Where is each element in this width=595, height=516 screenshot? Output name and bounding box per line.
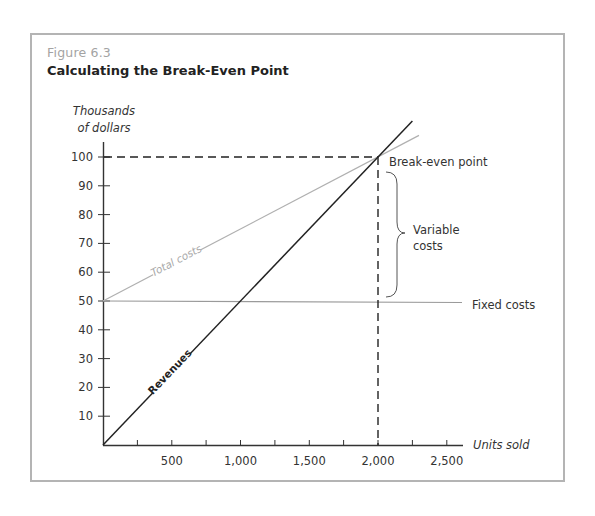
x-axis-title: Units sold: [473, 438, 530, 452]
svg-text:90: 90: [78, 179, 93, 193]
total-costs-label: Total costs: [149, 242, 204, 279]
x-axis-tick-labels: 500 1,000 1,500 2,000 2,500: [161, 454, 463, 468]
svg-text:1,000: 1,000: [224, 454, 257, 468]
svg-text:80: 80: [78, 208, 93, 222]
svg-text:10: 10: [78, 409, 93, 423]
svg-text:1,500: 1,500: [293, 454, 326, 468]
break-even-chart: Thousands of dollars 10 20 30 40 50 60 7…: [0, 0, 595, 516]
variable-costs-brace-icon: [386, 172, 405, 297]
variable-costs-label-line1: Variable: [413, 223, 460, 237]
y-axis-title-line2: of dollars: [77, 121, 130, 135]
svg-text:50: 50: [78, 294, 93, 308]
svg-text:100: 100: [71, 150, 93, 164]
y-axis-title-line1: Thousands: [73, 104, 135, 118]
svg-text:2,000: 2,000: [362, 454, 395, 468]
svg-text:70: 70: [78, 236, 93, 250]
total-costs-line: [103, 135, 419, 301]
svg-text:30: 30: [78, 352, 93, 366]
svg-text:20: 20: [78, 380, 93, 394]
variable-costs-label-line2: costs: [413, 239, 443, 253]
revenues-label: Revenues: [145, 347, 193, 397]
y-axis-tick-labels: 10 20 30 40 50 60 70 80 90 100: [71, 150, 93, 423]
revenues-line: [103, 121, 412, 445]
svg-text:60: 60: [78, 265, 93, 279]
fixed-costs-line: [103, 301, 462, 303]
break-even-point-label: Break-even point: [389, 155, 488, 169]
svg-text:2,500: 2,500: [430, 454, 463, 468]
fixed-costs-label: Fixed costs: [472, 298, 535, 312]
svg-text:500: 500: [161, 454, 183, 468]
svg-text:40: 40: [78, 323, 93, 337]
